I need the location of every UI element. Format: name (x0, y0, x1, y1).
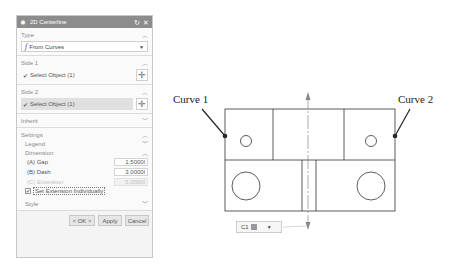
side2-section: Side 2 ︿ ✔ Select Object (1) ✛ (17, 85, 152, 114)
side1-select-label: Select Object (1) (30, 72, 75, 78)
chevron-down-icon[interactable]: ﹀ (142, 199, 148, 208)
extension-label: (C) Extension (27, 179, 63, 185)
chevron-up-icon[interactable]: ︿ (142, 58, 148, 67)
settings-header[interactable]: Settings ︿ (21, 130, 148, 139)
dialog-titlebar: ✹ 2D Centerline ↻ ✕ (17, 16, 152, 28)
curve2-leader (395, 109, 410, 136)
settings-section: Settings ︿ Legend ﹀ Dimension ︿ (A) Gap … (17, 128, 152, 211)
chevron-up-icon[interactable]: ︿ (142, 130, 148, 139)
set-extension-individually-row[interactable]: ✔ Set Extension Individually (21, 186, 148, 196)
side2-header[interactable]: Side 2 ︿ (21, 87, 148, 96)
dropdown-arrow-icon[interactable]: ▼ (139, 44, 144, 50)
legend-heading: Legend (25, 141, 45, 147)
type-dropdown[interactable]: ʃ From Curves ▼ (21, 41, 148, 52)
legend-header[interactable]: Legend ﹀ (21, 139, 148, 148)
side1-section: Side 1 ︿ ✔ Select Object (1) ✛ (17, 56, 152, 85)
centerline-dialog: ✹ 2D Centerline ↻ ✕ Type ︿ ʃ From Curves… (16, 15, 153, 258)
part-drawing (165, 40, 455, 273)
side1-select-object[interactable]: ✔ Select Object (1) (21, 69, 133, 81)
side1-header[interactable]: Side 1 ︿ (21, 58, 148, 67)
side2-crosshair-button[interactable]: ✛ (136, 98, 148, 110)
gear-icon[interactable]: ✹ (20, 19, 27, 26)
large-hole-left (232, 172, 260, 200)
centerline-handle[interactable]: C1 ▼ (236, 221, 282, 233)
curve-function-icon: ʃ (25, 42, 27, 51)
extension-input[interactable]: 5.0000l (114, 178, 148, 186)
small-hole-left (241, 136, 252, 147)
handle-label: C1 (241, 224, 249, 230)
settings-heading: Settings (21, 132, 43, 138)
handle-dropdown-icon[interactable]: ▼ (267, 224, 272, 230)
chevron-down-icon[interactable]: ﹀ (142, 139, 148, 148)
type-selected-value: From Curves (29, 44, 139, 50)
dialog-title: 2D Centerline (30, 19, 131, 25)
crosshair-icon: ✛ (138, 71, 146, 80)
cancel-button[interactable]: Cancel (125, 215, 149, 226)
set-extension-individually-label: Set Extension Individually (33, 187, 105, 195)
handle-leader (283, 226, 307, 227)
large-hole-right (357, 172, 385, 200)
checkmark-icon: ✔ (23, 101, 28, 108)
chevron-up-icon[interactable]: ︿ (142, 148, 148, 157)
gap-label: (A) Gap (27, 159, 48, 165)
small-hole-right (366, 136, 377, 147)
checkmark-icon: ✔ (23, 72, 28, 79)
type-heading: Type (21, 32, 34, 38)
apply-button[interactable]: Apply (98, 215, 122, 226)
dash-row: (B) Dash 3.0000l (21, 167, 148, 176)
dimension-heading: Dimension (25, 150, 53, 156)
type-section: Type ︿ ʃ From Curves ▼ (17, 28, 152, 56)
centerline-top-arrow-icon[interactable] (306, 92, 311, 100)
reset-icon[interactable]: ↻ (134, 19, 140, 26)
chevron-up-icon[interactable]: ︿ (142, 30, 148, 39)
dash-label: (B) Dash (27, 169, 51, 175)
ok-button[interactable]: < OK > (69, 215, 95, 226)
chevron-up-icon[interactable]: ︿ (142, 87, 148, 96)
set-extension-individually-checkbox[interactable]: ✔ (25, 188, 31, 194)
style-heading: Style (25, 201, 38, 207)
dialog-buttons: < OK > Apply Cancel (17, 211, 152, 230)
side1-crosshair-button[interactable]: ✛ (136, 69, 148, 81)
extension-row: (C) Extension 5.0000l (21, 177, 148, 186)
side2-select-label: Select Object (1) (30, 101, 75, 107)
gap-input[interactable]: 1.5000l (114, 158, 148, 166)
dimension-header[interactable]: Dimension ︿ (21, 148, 148, 157)
curve1-leader (202, 109, 225, 136)
crosshair-icon: ✛ (138, 100, 146, 109)
inherit-header: Inherit ﹀ (21, 116, 148, 125)
side2-heading: Side 2 (21, 89, 38, 95)
chevron-down-icon[interactable]: ﹀ (142, 116, 148, 125)
type-header[interactable]: Type ︿ (21, 30, 148, 39)
close-icon[interactable]: ✕ (143, 19, 149, 26)
dash-input[interactable]: 3.0000l (114, 168, 148, 176)
inherit-heading: Inherit (21, 118, 38, 124)
inherit-section[interactable]: Inherit ﹀ (17, 114, 152, 128)
gap-row: (A) Gap 1.5000l (21, 157, 148, 166)
drawing-canvas[interactable]: Curve 1 Curve 2 C1 ▼ (165, 40, 455, 273)
side1-heading: Side 1 (21, 60, 38, 66)
style-header[interactable]: Style ﹀ (21, 199, 148, 208)
side2-select-object[interactable]: ✔ Select Object (1) (21, 98, 133, 110)
handle-image-icon (251, 224, 257, 230)
